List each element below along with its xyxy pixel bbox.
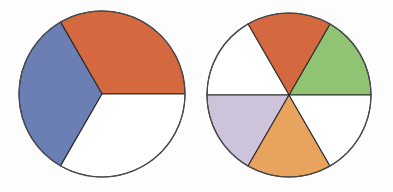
- left-circle: [19, 11, 185, 177]
- figure-canvas: [0, 0, 393, 192]
- fraction-circles-figure: [0, 0, 393, 192]
- sectors-layer: [19, 11, 371, 177]
- right-circle: [207, 13, 371, 177]
